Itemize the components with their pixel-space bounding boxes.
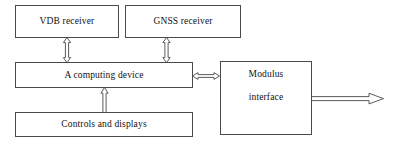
connector-gnss-to-computing — [163, 38, 170, 63]
node-modulus-interface-label-stack: Modulus interface — [249, 69, 284, 103]
node-controls-displays-label: Controls and displays — [61, 119, 146, 130]
node-modulus-interface-label-line2: interface — [249, 92, 284, 103]
node-computing-device-label: A computing device — [64, 70, 143, 81]
connector-vdb-to-computing — [63, 38, 70, 63]
node-computing-device: A computing device — [15, 62, 193, 88]
node-gnss-receiver-label: GNSS receiver — [153, 16, 212, 27]
node-vdb-receiver-label: VDB receiver — [40, 16, 95, 27]
node-modulus-interface: Modulus interface — [220, 61, 312, 135]
block-diagram-canvas: VDB receiver GNSS receiver A computing d… — [0, 0, 396, 145]
connector-modulus-output — [312, 93, 384, 104]
node-vdb-receiver: VDB receiver — [15, 5, 119, 38]
node-controls-displays: Controls and displays — [15, 112, 193, 137]
node-modulus-interface-label-line1: Modulus — [249, 69, 284, 80]
connector-computing-to-modulus — [193, 73, 220, 80]
node-gnss-receiver: GNSS receiver — [125, 5, 241, 38]
connector-controls-to-computing — [101, 88, 108, 113]
